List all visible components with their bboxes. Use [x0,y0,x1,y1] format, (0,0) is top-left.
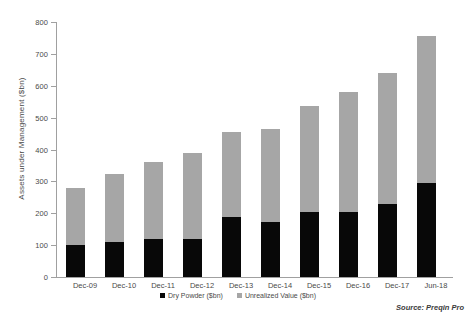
bar-segment-unrealized-value[interactable] [378,73,397,204]
bar-segment-unrealized-value[interactable] [339,92,358,212]
y-tick-label: 600 [35,81,48,90]
y-tick-label: 500 [35,113,48,122]
bar-segment-dry-powder[interactable] [222,217,241,277]
bar-segment-unrealized-value[interactable] [300,106,319,212]
y-axis-title-label: Assets under Management ($bn) [17,77,26,199]
y-tick-mark [51,181,56,182]
bar-segment-dry-powder[interactable] [183,239,202,277]
y-tick-label: 100 [35,241,48,250]
y-tick-label: 0 [44,273,48,282]
bar-segment-dry-powder[interactable] [417,183,436,277]
bar-segment-unrealized-value[interactable] [105,174,124,242]
bar-segment-dry-powder[interactable] [144,239,163,277]
bar-segment-unrealized-value[interactable] [417,36,436,182]
y-tick-mark [51,277,56,278]
y-tick-label: 200 [35,209,48,218]
legend-item[interactable]: Unrealized Value ($bn) [237,292,316,299]
bar-segment-dry-powder[interactable] [105,242,124,277]
bar-segment-unrealized-value[interactable] [261,129,280,222]
y-tick-mark [51,86,56,87]
bar-segment-dry-powder[interactable] [339,212,358,277]
y-tick-label: 300 [35,177,48,186]
y-tick-mark [51,150,56,151]
y-tick-label: 400 [35,145,48,154]
bar-segment-dry-powder[interactable] [261,222,280,277]
legend-label: Unrealized Value ($bn) [245,292,316,299]
x-axis-line [56,277,453,278]
bar-segment-dry-powder[interactable] [378,204,397,277]
legend-swatch-icon [237,293,242,298]
y-tick-mark [51,118,56,119]
chart-legend: Dry Powder ($bn)Unrealized Value ($bn) [0,292,476,299]
y-tick-mark [51,213,56,214]
y-tick-label: 700 [35,49,48,58]
y-tick-mark [51,54,56,55]
y-tick-mark [51,22,56,23]
plot-area: 0100200300400500600700800 Dec-09Dec-10De… [56,22,453,277]
y-tick-mark [51,245,56,246]
bar-segment-dry-powder[interactable] [66,245,85,277]
chart-container: Assets under Management ($bn) 0100200300… [0,0,476,323]
bar-segment-unrealized-value[interactable] [144,162,163,239]
y-tick-label: 800 [35,18,48,27]
x-tick-label: Jun-18 [406,281,466,290]
bar-segment-unrealized-value[interactable] [66,188,85,245]
legend-swatch-icon [160,293,165,298]
bar-segment-unrealized-value[interactable] [183,153,202,238]
y-axis-line [56,22,57,277]
legend-label: Dry Powder ($bn) [168,292,223,299]
bar-segment-unrealized-value[interactable] [222,132,241,217]
bar-segment-dry-powder[interactable] [300,212,319,277]
legend-item[interactable]: Dry Powder ($bn) [160,292,223,299]
source-note: Source: Preqin Pro [396,303,464,312]
y-axis-title: Assets under Management ($bn) [14,0,28,277]
